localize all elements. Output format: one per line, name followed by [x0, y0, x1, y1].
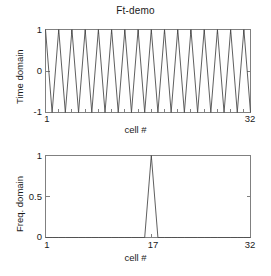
figure-canvas: Ft-demo Time domain 1 0 -1 1 32 cell # F…	[0, 0, 271, 276]
bottom-plot-series	[46, 156, 251, 238]
plot-graphics-layer	[0, 0, 271, 276]
top-plot-series	[46, 30, 251, 113]
